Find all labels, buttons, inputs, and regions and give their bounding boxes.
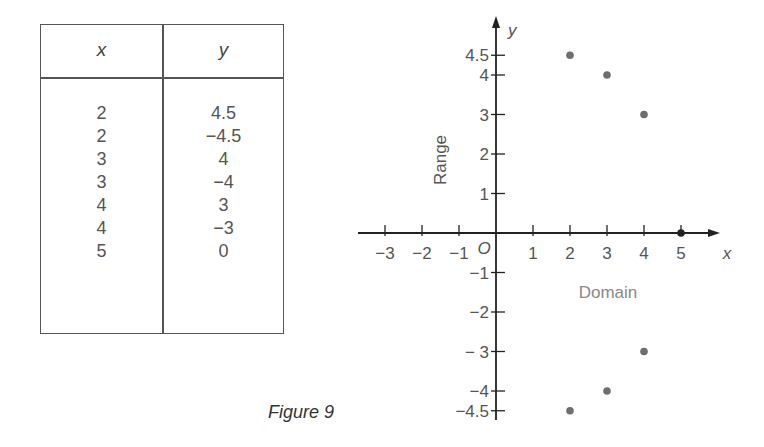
domain-annotation: Domain bbox=[579, 283, 638, 302]
x-tick-label: −2 bbox=[412, 244, 431, 263]
scatter-chart: −3−2−1123454.54321−1−2− 3−4−4.5xyODomain… bbox=[0, 0, 764, 447]
origin-label: O bbox=[477, 239, 490, 258]
y-tick-label: −4.5 bbox=[455, 402, 489, 421]
x-tick-label: 5 bbox=[676, 244, 685, 263]
data-point bbox=[677, 229, 685, 237]
x-tick-label: 2 bbox=[565, 244, 574, 263]
y-tick-label: 1 bbox=[480, 185, 489, 204]
x-axis-arrow-icon bbox=[708, 229, 720, 237]
x-tick-label: 1 bbox=[528, 244, 537, 263]
x-axis-label: x bbox=[722, 244, 732, 263]
x-tick-label: −1 bbox=[449, 244, 468, 263]
y-axis-arrow-icon bbox=[492, 16, 500, 28]
data-point bbox=[566, 407, 574, 415]
y-tick-label: −2 bbox=[470, 303, 489, 322]
data-point bbox=[566, 51, 574, 59]
data-point bbox=[640, 348, 648, 356]
data-point bbox=[603, 387, 611, 395]
data-point bbox=[603, 71, 611, 79]
x-tick-label: 3 bbox=[602, 244, 611, 263]
y-tick-label: 4.5 bbox=[465, 46, 489, 65]
x-tick-label: 4 bbox=[639, 244, 648, 263]
y-axis-label: y bbox=[507, 21, 518, 40]
y-tick-label: 2 bbox=[480, 145, 489, 164]
x-tick-label: −3 bbox=[375, 244, 394, 263]
y-tick-label: −4 bbox=[470, 382, 489, 401]
range-annotation: Range bbox=[431, 135, 450, 185]
y-tick-label: −1 bbox=[470, 264, 489, 283]
data-point bbox=[640, 111, 648, 119]
y-tick-label: − 3 bbox=[465, 343, 489, 362]
y-tick-label: 3 bbox=[480, 106, 489, 125]
y-tick-label: 4 bbox=[480, 66, 489, 85]
